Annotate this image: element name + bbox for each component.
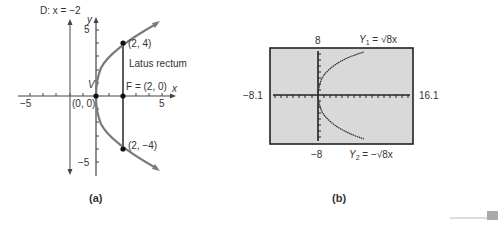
focus-label: F = (2, 0) <box>126 81 167 92</box>
y-tick-neg5: −5 <box>78 157 90 168</box>
page-edge-block <box>487 211 498 220</box>
focus-point <box>120 93 125 98</box>
x-axis-arrow-icon <box>170 94 176 99</box>
y1-equation-label: Y1 = √8x <box>359 34 397 46</box>
lower-latus-point <box>120 146 125 151</box>
caption-b: (b) <box>332 192 346 204</box>
x-axis-label: x <box>171 83 178 94</box>
directrix-up-arrow-icon <box>68 19 73 25</box>
figure-canvas: D: x = −2 y 5 −5 −5 5 x V (0, 0) F = (2,… <box>0 0 498 226</box>
parabola-upper-arrow-icon <box>152 21 160 28</box>
ymin-label: −8 <box>311 149 323 160</box>
vertex-label: V <box>88 79 96 90</box>
x-tick-neg5: −5 <box>20 98 32 109</box>
upper-point-label: (2, 4) <box>128 38 151 49</box>
parabola-lower-arrow-icon <box>152 164 160 171</box>
directrix-label: D: x = −2 <box>40 5 81 16</box>
vertex-coords-label: (0, 0) <box>72 98 95 109</box>
y-tick-5: 5 <box>84 24 90 35</box>
upper-latus-point <box>120 40 125 45</box>
panel-b: 8 −8 −8.1 16.1 Y1 = √8x Y2 = −√8x (b) <box>243 34 439 204</box>
xmin-label: −8.1 <box>243 90 263 101</box>
ymax-label: 8 <box>315 35 321 46</box>
lower-point-label: (2, −4) <box>128 140 157 151</box>
x-tick-5: 5 <box>159 98 165 109</box>
panel-a: D: x = −2 y 5 −5 −5 5 x V (0, 0) F = (2,… <box>18 5 187 204</box>
xmax-label: 16.1 <box>419 90 439 101</box>
caption-a: (a) <box>89 192 103 204</box>
y2-equation-label: Y2 = −√8x <box>349 149 393 161</box>
y-axis-arrow-icon <box>94 17 99 23</box>
latus-rectum-label: Latus rectum <box>129 58 187 69</box>
directrix-down-arrow-icon <box>68 169 73 175</box>
